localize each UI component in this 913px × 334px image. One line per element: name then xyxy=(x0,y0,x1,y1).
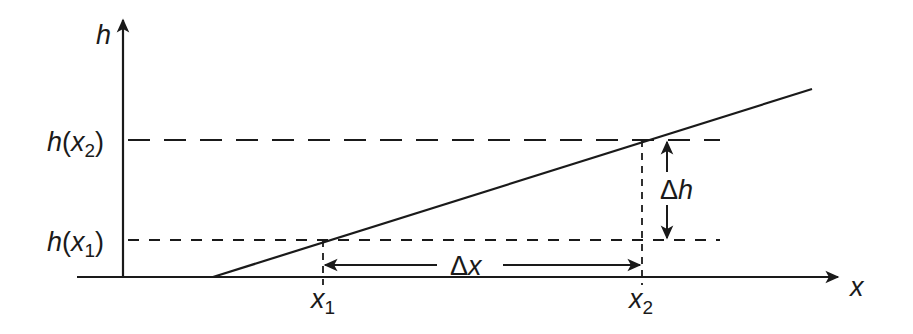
y-axis-label: h xyxy=(96,20,111,50)
x1-tick-label: x1 xyxy=(309,284,335,318)
h-x2-label: h(x2) xyxy=(47,127,104,161)
linear-function-line xyxy=(213,89,812,277)
x-axis-label: x xyxy=(848,272,865,302)
h-x1-label: h(x1) xyxy=(47,227,104,261)
delta-h-label: Δh xyxy=(660,175,693,205)
delta-x-label: Δx xyxy=(450,251,483,281)
linear-function-diagram: h x h(x2) h(x1) x1 x2 Δx Δh xyxy=(0,0,913,334)
x2-tick-label: x2 xyxy=(627,284,653,318)
diagram-svg: h x h(x2) h(x1) x1 x2 Δx Δh xyxy=(0,0,913,334)
